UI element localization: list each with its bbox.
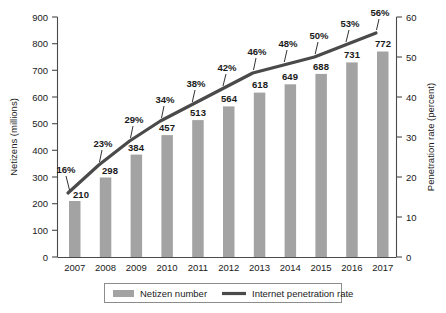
bar-2013[interactable] (254, 93, 265, 257)
right-tick-label: 60 (406, 12, 417, 23)
left-tick-label: 200 (32, 198, 48, 209)
bar-value-2011: 513 (190, 107, 206, 118)
pct-value-2009: 29% (124, 114, 144, 125)
bar-2011[interactable] (192, 120, 204, 257)
pct-value-2008: 23% (93, 138, 113, 149)
left-tick-label: 0 (43, 252, 48, 263)
left-tick-label: 400 (32, 145, 48, 156)
cat-label-2010: 2010 (157, 262, 178, 273)
bar-value-2015: 688 (313, 61, 329, 72)
left-tick-label: 600 (32, 92, 48, 103)
cat-label-2016: 2016 (341, 262, 362, 273)
bar-value-2014: 649 (282, 71, 298, 82)
bar-2014[interactable] (285, 84, 297, 257)
x-axis-category-labels: 2007 2008 2009 2010 2011 2012 2013 2014 … (64, 262, 393, 273)
bar-value-2012: 564 (221, 93, 238, 104)
bar-2007[interactable] (69, 201, 81, 257)
right-tick-label: 0 (406, 252, 411, 263)
pct-value-2015: 50% (309, 30, 329, 41)
right-tick-label: 40 (406, 92, 417, 103)
bar-2010[interactable] (161, 135, 173, 257)
cat-label-2014: 2014 (280, 262, 301, 273)
cat-label-2009: 2009 (126, 262, 147, 273)
cat-label-2008: 2008 (95, 262, 116, 273)
pct-value-2013: 46% (247, 46, 267, 57)
bar-value-2013: 618 (252, 79, 268, 90)
pct-value-2014: 48% (278, 38, 298, 49)
pct-value-2007: 16% (56, 164, 76, 175)
left-axis-title: Netizens (millions) (8, 98, 19, 176)
legend-swatch-netizen-number[interactable] (113, 290, 134, 297)
left-tick-label: 300 (32, 172, 48, 183)
right-tick-label: 20 (406, 172, 417, 183)
left-tick-label: 900 (32, 12, 48, 23)
chart-legend: Netizen number Internet penetration rate (105, 284, 354, 303)
bar-2017[interactable] (377, 52, 389, 258)
right-tick-label: 30 (406, 132, 417, 143)
left-tick-label: 800 (32, 38, 48, 49)
bar-value-2007: 210 (73, 189, 89, 200)
right-tick-label: 10 (406, 212, 417, 223)
bar-value-2009: 384 (128, 142, 145, 153)
bar-value-2017: 772 (375, 38, 391, 49)
pct-value-2012: 42% (217, 62, 237, 73)
cat-label-2007: 2007 (64, 262, 85, 273)
cat-label-2015: 2015 (311, 262, 332, 273)
legend-label-internet-penetration-rate: Internet penetration rate (252, 288, 353, 299)
bar-2016[interactable] (346, 62, 358, 257)
cat-label-2011: 2011 (188, 262, 208, 273)
bar-value-2016: 731 (344, 49, 361, 60)
left-tick-label: 700 (32, 65, 48, 76)
bar-2008[interactable] (100, 178, 112, 258)
left-tick-label: 500 (32, 118, 48, 129)
pct-value-2011: 38% (186, 78, 206, 89)
right-axis-title: Penetration rate (percent) (425, 83, 436, 191)
pct-value-2016: 53% (340, 18, 360, 29)
pct-value-2017: 56% (370, 7, 390, 18)
cat-label-2017: 2017 (372, 262, 393, 273)
bar-value-2010: 457 (159, 122, 175, 133)
pct-value-2010: 34% (155, 94, 175, 105)
right-tick-label: 50 (406, 52, 417, 63)
legend-label-netizen-number: Netizen number (140, 288, 207, 299)
cat-label-2013: 2013 (249, 262, 270, 273)
bar-2012[interactable] (223, 106, 235, 257)
bar-2009[interactable] (131, 155, 143, 257)
netizens-penetration-combo-chart: 900 800 700 600 500 400 300 200 100 0 Ne… (0, 0, 446, 313)
left-tick-label: 100 (32, 225, 48, 236)
bar-2015[interactable] (315, 74, 327, 257)
bar-value-2008: 298 (102, 165, 118, 176)
cat-label-2012: 2012 (218, 262, 239, 273)
chart-container: 900 800 700 600 500 400 300 200 100 0 Ne… (0, 0, 446, 313)
